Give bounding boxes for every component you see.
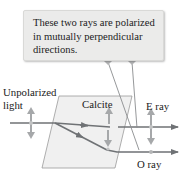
label-o-ray: O ray: [137, 158, 161, 170]
pointer-tab-e-icon: [128, 61, 136, 65]
label-unpolarized: Unpolarized: [3, 86, 56, 98]
o-ray-polarization-dot-icon: [149, 150, 153, 154]
callout-line-3: directions.: [33, 43, 157, 57]
callout-box: These two rays are polarized in mutually…: [23, 10, 164, 61]
label-light: light: [3, 99, 23, 111]
birefringence-diagram: These two rays are polarized in mutually…: [0, 0, 187, 175]
pointer-tab-o-icon: [104, 61, 112, 65]
callout-pointer-e: [132, 62, 137, 128]
callout-line-2: in mutually perpendicular: [33, 30, 157, 44]
label-calcite: Calcite: [82, 98, 113, 110]
callout-line-1: These two rays are polarized: [33, 16, 157, 30]
e-ray-inner-arrow-icon: [80, 125, 88, 126]
label-e-ray: E ray: [146, 100, 169, 112]
